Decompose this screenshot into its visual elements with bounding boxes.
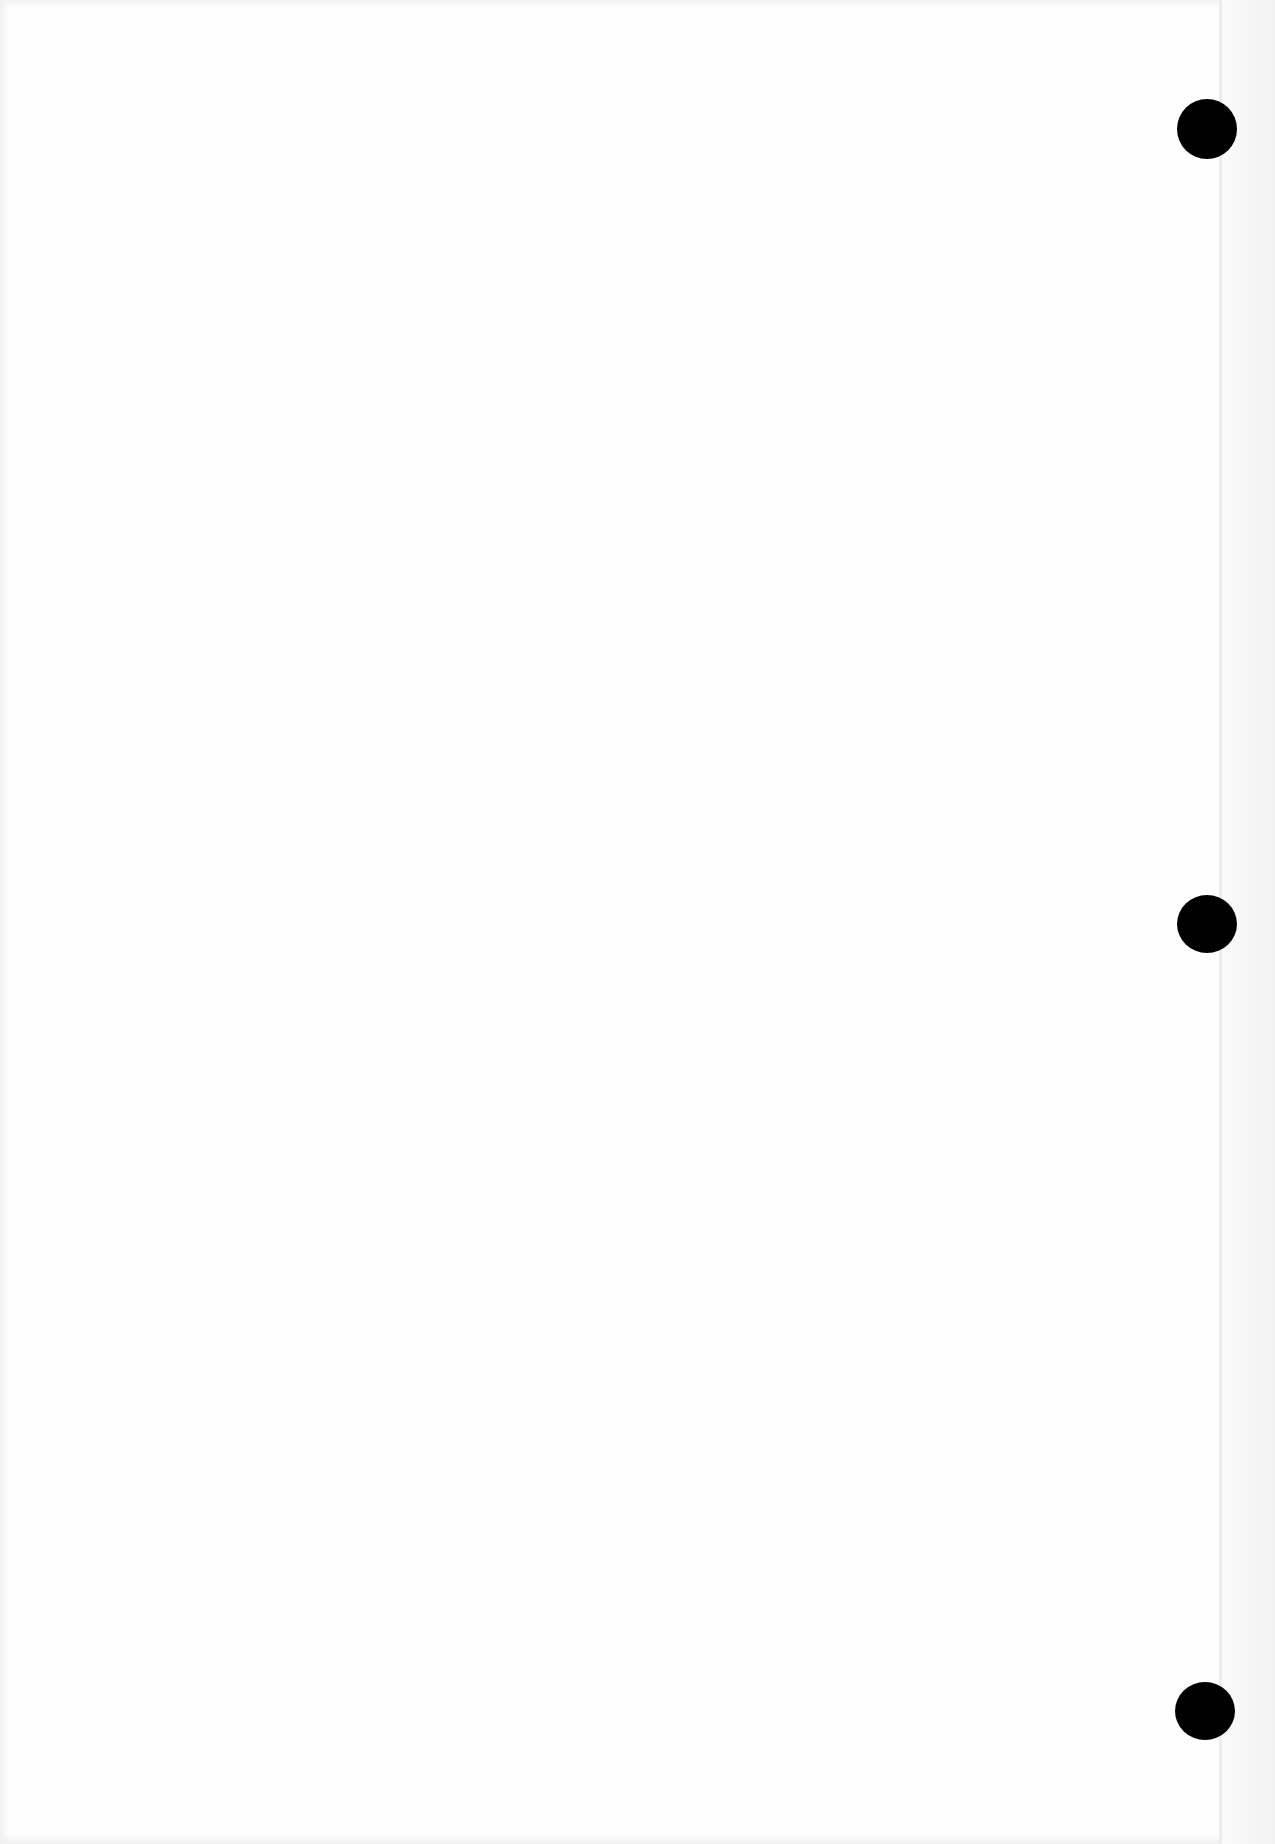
punch-hole-bottom bbox=[1175, 1682, 1235, 1740]
punch-hole-middle bbox=[1177, 895, 1237, 953]
blank-document-page bbox=[0, 0, 1275, 1844]
top-edge-shadow bbox=[0, 0, 1275, 8]
bottom-edge-shadow bbox=[0, 1834, 1275, 1844]
left-edge-shadow bbox=[0, 0, 10, 1844]
punch-hole-top bbox=[1177, 99, 1237, 159]
